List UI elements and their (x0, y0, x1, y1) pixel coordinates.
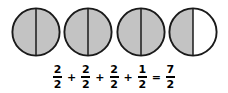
fraction-figure: 2 2 + 2 2 + 2 2 + 1 2 = (0, 0, 228, 93)
fraction-result: 7 2 (166, 64, 175, 90)
fraction-circle-4 (168, 7, 218, 57)
plus-sign-3: + (124, 72, 133, 83)
fraction-result-numerator: 7 (167, 64, 175, 75)
fraction-circle-1 (11, 7, 61, 57)
circle-2-left-half (64, 8, 88, 55)
circle-model-row (0, 0, 228, 62)
equation-expression: 2 2 + 2 2 + 2 2 + 1 2 = (51, 64, 177, 90)
circle-1-right-half (36, 8, 60, 55)
equation-row: 2 2 + 2 2 + 2 2 + 1 2 = (0, 61, 228, 93)
circle-3-left-half (117, 8, 141, 55)
fraction-term-4-denominator: 2 (138, 79, 146, 90)
circle-3-right-half (141, 8, 165, 55)
fraction-term-1-numerator: 2 (54, 64, 62, 75)
plus-sign-2: + (95, 72, 104, 83)
fraction-term-4-numerator: 1 (138, 64, 146, 75)
circle-4-left-half (169, 8, 193, 55)
fraction-circle-3 (116, 7, 166, 57)
fraction-circle-2 (63, 7, 113, 57)
fraction-term-1-denominator: 2 (54, 79, 62, 90)
fraction-term-4: 1 2 (138, 64, 147, 90)
circle-2-right-half (88, 8, 112, 55)
fraction-term-3-numerator: 2 (110, 64, 118, 75)
plus-sign-1: + (67, 72, 76, 83)
fraction-result-denominator: 2 (167, 79, 175, 90)
equals-sign: = (152, 72, 161, 83)
fraction-term-2-numerator: 2 (82, 64, 90, 75)
circle-4-right-half (193, 8, 217, 55)
fraction-term-3: 2 2 (110, 64, 119, 90)
fraction-term-1: 2 2 (53, 64, 62, 90)
fraction-term-3-denominator: 2 (110, 79, 118, 90)
circle-1-left-half (12, 8, 36, 55)
fraction-term-2: 2 2 (81, 64, 90, 90)
fraction-term-2-denominator: 2 (82, 79, 90, 90)
